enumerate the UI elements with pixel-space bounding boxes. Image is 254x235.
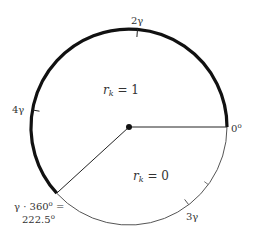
thick-arc-rk1 xyxy=(31,29,227,193)
tick-2gamma xyxy=(137,29,138,37)
region-label-rk0: rk = 0 xyxy=(133,169,169,184)
region-label-rk1: rk = 1 xyxy=(103,83,139,98)
tick-3gamma xyxy=(185,199,189,204)
label-222-5deg: 222.5o xyxy=(22,213,55,225)
label-0deg: 0o xyxy=(231,122,242,134)
circle-diagram: rk = 1 rk = 0 0o 2γ 4γ 3γ γ · 360o = 222… xyxy=(0,0,254,235)
label-2gamma: 2γ xyxy=(131,15,143,26)
radius-222-5deg xyxy=(57,127,129,193)
label-4gamma: 4γ xyxy=(12,104,24,115)
label-gamma-360: γ · 360o = xyxy=(14,200,64,212)
label-3gamma: 3γ xyxy=(186,211,198,222)
center-dot xyxy=(126,124,132,130)
tick-unlabeled xyxy=(204,182,208,185)
